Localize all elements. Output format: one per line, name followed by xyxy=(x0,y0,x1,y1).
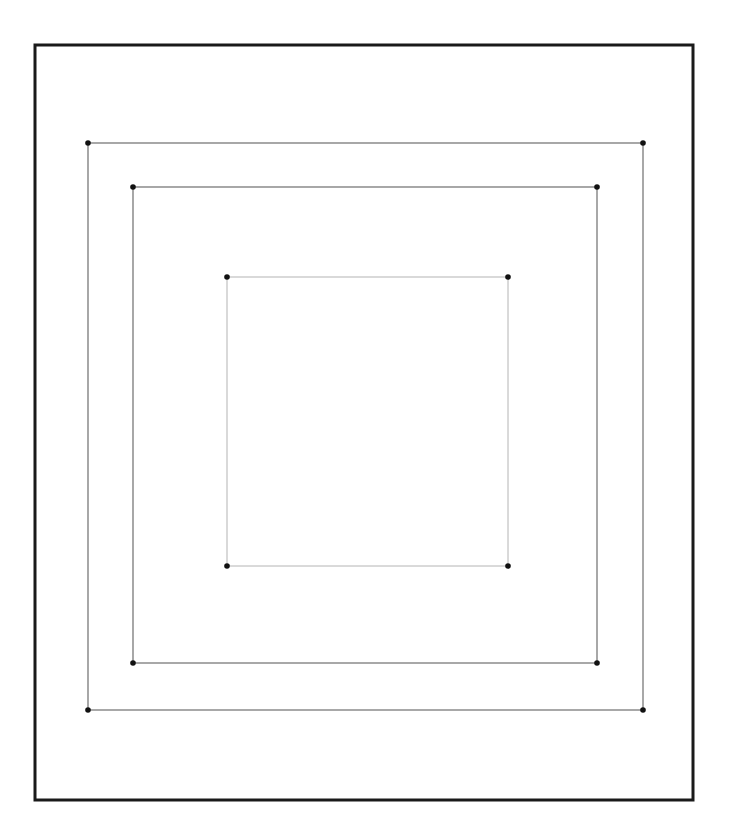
outer-frame xyxy=(35,45,693,800)
nested-squares-diagram xyxy=(0,0,735,834)
vertex-dot xyxy=(85,707,91,713)
inner-square xyxy=(224,274,511,569)
middle-square-outline xyxy=(133,187,597,663)
outer-square xyxy=(85,140,646,713)
outer-square-outline xyxy=(88,143,643,710)
middle-square xyxy=(130,184,600,666)
vertex-dot xyxy=(130,660,136,666)
diagram-canvas xyxy=(0,0,735,834)
vertex-dot xyxy=(505,274,511,280)
vertex-dot xyxy=(130,184,136,190)
inner-square-outline xyxy=(227,277,508,566)
nested-squares xyxy=(85,140,646,713)
vertex-dot xyxy=(85,140,91,146)
vertex-dot xyxy=(594,660,600,666)
vertex-dot xyxy=(640,707,646,713)
vertex-dot xyxy=(505,563,511,569)
vertex-dot xyxy=(640,140,646,146)
vertex-dot xyxy=(224,274,230,280)
vertex-dot xyxy=(594,184,600,190)
vertex-dot xyxy=(224,563,230,569)
